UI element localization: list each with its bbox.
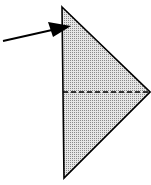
- origami-diagram: [0, 0, 151, 185]
- arrow-icon: [3, 22, 71, 41]
- diagram-svg: [0, 0, 151, 185]
